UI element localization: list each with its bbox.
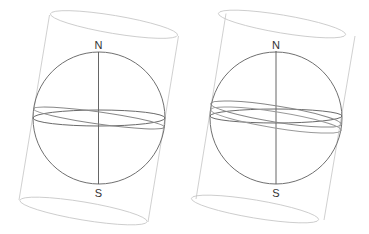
figure-right: N S — [190, 4, 355, 228]
north-label-left: N — [95, 39, 103, 51]
sphere-left — [33, 52, 165, 184]
south-label-right: S — [272, 187, 279, 199]
north-label-right: N — [272, 39, 280, 51]
south-label-left: S — [95, 187, 102, 199]
diagram-canvas: N S N S — [0, 0, 369, 234]
figure-left: N S — [18, 5, 179, 231]
tilted-orbit-left — [33, 103, 165, 133]
